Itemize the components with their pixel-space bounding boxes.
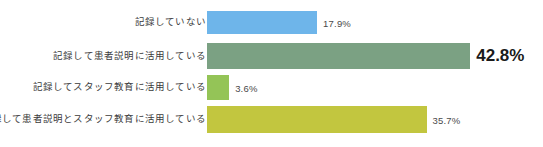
bar-track <box>207 11 317 34</box>
category-label: 記録して患者説明とスタッフ教育に活用している <box>0 114 206 124</box>
bar-row: 記録していない 17.9% <box>0 11 543 34</box>
bar-fill <box>207 11 317 34</box>
bar-row: 記録して患者説明とスタッフ教育に活用している 35.7% <box>0 106 543 133</box>
value-label: 3.6% <box>235 82 257 93</box>
bar-track <box>207 106 427 133</box>
value-label-emphasis: 42.8% <box>476 46 524 66</box>
category-label: 記録してスタッフ教育に活用している <box>33 82 206 92</box>
bar-fill <box>207 43 470 69</box>
category-label: 記録して患者説明に活用している <box>53 51 206 61</box>
horizontal-bar-chart: 記録していない 17.9% 記録して患者説明に活用している 42.8% 記録して… <box>0 0 543 147</box>
bar-fill <box>207 106 427 133</box>
category-label: 記録していない <box>135 17 206 27</box>
bar-track <box>207 75 229 100</box>
bar-fill <box>207 75 229 100</box>
bar-row: 記録してスタッフ教育に活用している 3.6% <box>0 75 543 100</box>
value-label: 35.7% <box>433 114 461 125</box>
bar-row: 記録して患者説明に活用している 42.8% <box>0 43 543 69</box>
bar-track <box>207 43 470 69</box>
value-label: 17.9% <box>323 17 351 28</box>
